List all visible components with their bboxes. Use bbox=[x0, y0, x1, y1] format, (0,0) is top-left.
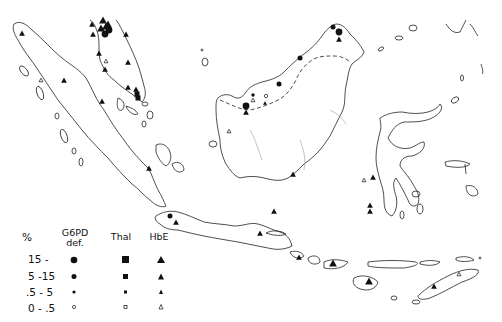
g6pd-circle-icon bbox=[298, 56, 303, 61]
legend: % G6PD def. Thal HbE 15 - 5 -15 .5 - 5 0… bbox=[20, 228, 200, 318]
hbe-triangle-icon bbox=[271, 208, 277, 213]
hbe-triangle-icon bbox=[99, 16, 107, 23]
g6pd-circle-icon bbox=[264, 94, 267, 97]
legend-circle-small-icon bbox=[72, 290, 75, 293]
hbe-triangle-icon bbox=[243, 109, 249, 114]
hbe-triangle-icon bbox=[173, 219, 179, 224]
legend-triangle-medium-icon bbox=[158, 274, 164, 280]
hbe-triangle-icon bbox=[125, 84, 131, 89]
hbe-triangle-icon bbox=[125, 59, 131, 64]
hbe-triangle-icon bbox=[96, 50, 102, 55]
hbe-triangle-icon bbox=[251, 98, 255, 102]
hbe-triangle-icon bbox=[336, 36, 342, 41]
g6pd-circle-icon bbox=[106, 27, 113, 34]
hbe-triangle-icon bbox=[367, 202, 373, 207]
g6pd-circle-icon bbox=[168, 214, 173, 219]
hbe-triangle-icon bbox=[263, 101, 267, 105]
g6pd-circle-icon bbox=[243, 103, 250, 110]
hbe-triangle-icon bbox=[290, 171, 296, 176]
hbe-triangle-icon bbox=[146, 165, 152, 170]
hbe-triangle-icon bbox=[99, 98, 105, 103]
hbe-triangle-icon bbox=[89, 21, 95, 26]
legend-square-small-icon bbox=[124, 291, 127, 294]
legend-circle-large-icon bbox=[71, 257, 78, 264]
legend-triangle-open-icon bbox=[159, 305, 163, 310]
hbe-triangle-icon bbox=[104, 59, 108, 63]
hbe-triangle-icon bbox=[102, 66, 108, 71]
legend-triangle-small-icon bbox=[159, 290, 163, 295]
g6pd-circle-icon bbox=[251, 93, 254, 96]
hbe-triangle-icon bbox=[431, 283, 437, 288]
g6pd-circle-icon bbox=[277, 82, 282, 87]
hbe-triangle-icon bbox=[370, 174, 376, 179]
hbe-triangle-icon bbox=[133, 86, 139, 91]
legend-square-large-icon bbox=[122, 256, 129, 263]
legend-square-medium-icon bbox=[123, 274, 128, 279]
g6pd-circle-icon bbox=[336, 29, 343, 36]
hbe-triangle-icon bbox=[457, 272, 461, 276]
legend-triangle-large-icon bbox=[157, 256, 165, 263]
g6pd-circle-icon bbox=[331, 25, 336, 30]
hbe-triangle-icon bbox=[19, 30, 25, 35]
legend-symbols bbox=[20, 228, 200, 320]
legend-circle-medium-icon bbox=[72, 274, 77, 279]
hbe-triangle-icon bbox=[39, 78, 43, 82]
thal-square-icon bbox=[136, 96, 141, 101]
hbe-triangle-icon bbox=[367, 208, 373, 213]
hbe-triangle-icon bbox=[257, 230, 263, 235]
legend-circle-open-icon bbox=[72, 305, 75, 308]
legend-square-open-icon bbox=[124, 306, 127, 309]
hbe-triangle-icon bbox=[90, 31, 96, 36]
hbe-triangle-icon bbox=[61, 77, 67, 82]
hbe-triangle-icon bbox=[329, 259, 337, 266]
hbe-triangle-icon bbox=[365, 277, 373, 284]
hbe-triangle-icon bbox=[296, 254, 302, 259]
hbe-triangle-icon bbox=[123, 31, 129, 36]
hbe-triangle-icon bbox=[227, 129, 231, 133]
hbe-triangle-icon bbox=[362, 178, 366, 182]
